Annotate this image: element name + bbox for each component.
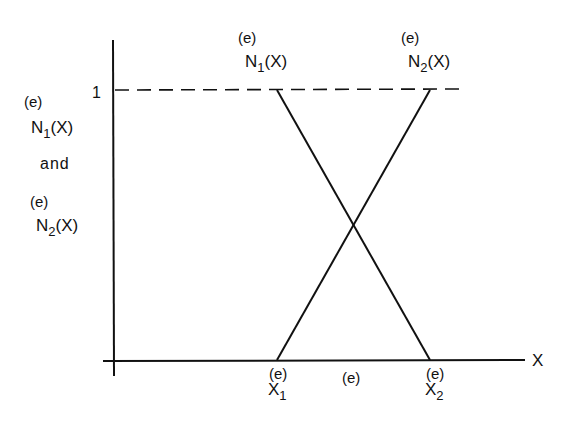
x1-subscript: 1 (279, 388, 286, 403)
y-label-n1-superscript: (e) (24, 94, 42, 109)
curve-n1-subscript: 1 (257, 60, 264, 75)
curve-n2-main: N (408, 52, 420, 71)
curve-n2-subscript: 2 (420, 60, 427, 75)
y-label-n2-arg: (X) (56, 216, 79, 235)
y-label-n2-main: N (36, 216, 48, 235)
x-axis-label: X (532, 352, 543, 369)
y-label-n2-superscript: (e) (30, 194, 48, 209)
element-label: (e) (342, 370, 360, 385)
x1-superscript: (e) (269, 366, 287, 381)
y-label-n2: N2(X) (36, 217, 78, 235)
y-label-n1-main: N (31, 118, 43, 137)
y-label-n1-subscript: 1 (43, 126, 50, 141)
x2-main: X (425, 380, 436, 399)
curve-n1-label: N1(X) (245, 53, 287, 71)
curve-n1-arg: (X) (265, 52, 288, 71)
x1-main: X (268, 380, 279, 399)
curve-n1-main: N (245, 52, 257, 71)
y-label-n1-arg: (X) (51, 118, 74, 137)
x2-subscript: 2 (436, 388, 443, 403)
curve-n2-superscript: (e) (401, 30, 419, 45)
unity-dashed-line (115, 89, 460, 90)
curve-n2-label: N2(X) (408, 53, 450, 71)
x2-label: X2 (425, 381, 444, 399)
y-label-n1: N1(X) (31, 119, 73, 137)
x1-label: X1 (268, 381, 287, 399)
curve-n1-superscript: (e) (238, 30, 256, 45)
y-label-and: and (40, 155, 70, 172)
y-label-n2-subscript: 2 (48, 224, 55, 239)
y-tick-one: 1 (92, 84, 101, 101)
curve-n2-arg: (X) (428, 52, 451, 71)
x-axis (103, 360, 525, 361)
y-axis (113, 40, 114, 376)
x2-superscript: (e) (426, 366, 444, 381)
